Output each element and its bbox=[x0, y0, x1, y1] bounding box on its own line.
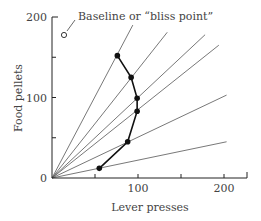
x-axis-label: Lever presses bbox=[111, 201, 189, 214]
data-point bbox=[134, 96, 140, 102]
y-tick-label: 0 bbox=[40, 172, 47, 185]
y-axis-label: Food pellets bbox=[12, 64, 25, 132]
data-point bbox=[128, 75, 134, 81]
data-point bbox=[134, 108, 140, 114]
chart: 1002000100200 Baseline or “bliss point” … bbox=[0, 0, 261, 221]
annotation-leader-line bbox=[67, 20, 75, 31]
x-tick-label: 100 bbox=[128, 182, 149, 195]
annotation: Baseline or “bliss point” bbox=[61, 10, 213, 38]
constraint-line bbox=[52, 25, 133, 178]
series-line bbox=[99, 56, 137, 169]
constraint-lines bbox=[52, 25, 227, 178]
x-tick-label: 200 bbox=[214, 182, 235, 195]
y-tick-label: 100 bbox=[26, 92, 47, 105]
constraint-line bbox=[52, 142, 227, 178]
bliss-point-marker bbox=[61, 32, 66, 37]
axes bbox=[52, 17, 247, 178]
y-tick-label: 200 bbox=[26, 11, 47, 24]
annotation-text: Baseline or “bliss point” bbox=[78, 10, 213, 23]
data-point bbox=[115, 53, 121, 59]
constraint-line bbox=[52, 35, 205, 178]
data-point bbox=[125, 139, 131, 145]
constraint-line bbox=[52, 95, 227, 178]
constraint-line bbox=[52, 32, 167, 178]
data-point bbox=[97, 166, 103, 172]
